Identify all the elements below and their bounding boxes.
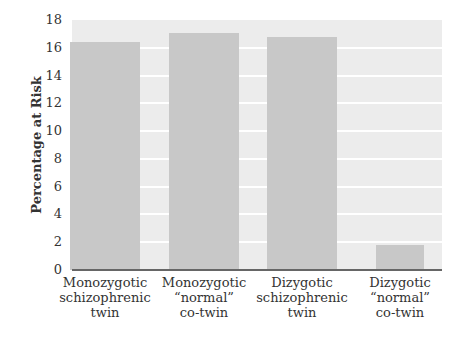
x-category-label: Dizygoticschizophrenictwin: [247, 275, 357, 320]
x-category-label-line: Monozygotic: [50, 275, 160, 290]
bar: [169, 33, 239, 271]
x-category-label: Monozygoticschizophrenictwin: [50, 275, 160, 320]
x-category-label-line: schizophrenic: [247, 290, 357, 305]
x-category-label-line: Dizygotic: [247, 275, 357, 290]
x-category-label-line: “normal”: [149, 290, 259, 305]
y-tick-label: 18: [40, 13, 62, 27]
x-category-label: Dizygotic“normal”co-twin: [345, 275, 455, 320]
x-category-label-line: twin: [50, 305, 160, 320]
bar: [267, 37, 337, 270]
x-category-label-line: twin: [247, 305, 357, 320]
x-category-label-line: co-twin: [345, 305, 455, 320]
x-category-label-line: Monozygotic: [149, 275, 259, 290]
bar: [70, 42, 140, 270]
x-category-label: Monozygotic“normal”co-twin: [149, 275, 259, 320]
bar: [376, 245, 424, 270]
bar-chart: 024681012141618 Percentage at Risk Monoz…: [0, 0, 465, 343]
y-axis-label: Percentage at Risk: [29, 76, 44, 214]
y-tick-label: 16: [40, 41, 62, 55]
x-category-label-line: Dizygotic: [345, 275, 455, 290]
x-category-label-line: “normal”: [345, 290, 455, 305]
x-axis-line: [72, 269, 442, 271]
y-tick-label: 2: [40, 235, 62, 249]
x-category-label-line: schizophrenic: [50, 290, 160, 305]
x-category-label-line: co-twin: [149, 305, 259, 320]
